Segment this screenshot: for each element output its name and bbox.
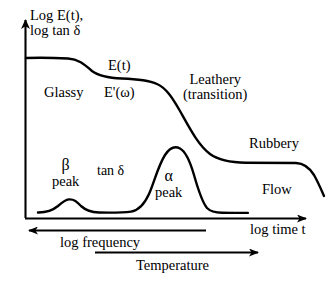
label-temperature: Temperature xyxy=(136,258,209,273)
label-log-frequency: log frequency xyxy=(60,235,140,250)
label-beta-peak-text: peak xyxy=(52,174,79,189)
label-alpha-peak-text: peak xyxy=(155,185,182,200)
y-axis-label-line2: log tan δ xyxy=(30,23,83,38)
label-leathery-line1: Leathery xyxy=(189,71,241,87)
y-axis-label: Log E(t), log tan δ xyxy=(30,8,83,38)
y-axis-label-line1: Log E(t), xyxy=(30,7,83,23)
label-modulus-et: E(t) xyxy=(108,58,131,73)
label-beta-peak: β peak xyxy=(52,157,79,189)
viscoelastic-regions-figure: Log E(t), log tan δ Glassy E(t) E'(ω) Le… xyxy=(0,0,331,292)
label-modulus-e-prime-omega: E'(ω) xyxy=(104,85,135,100)
label-glassy: Glassy xyxy=(44,85,83,100)
label-flow: Flow xyxy=(262,182,292,197)
label-rubbery: Rubbery xyxy=(249,136,299,151)
label-leathery-line2: (transition) xyxy=(183,87,247,102)
label-log-time: log time t xyxy=(250,222,306,237)
label-beta-symbol: β xyxy=(52,157,79,174)
label-alpha-symbol: α xyxy=(155,168,182,185)
label-leathery: Leathery (transition) xyxy=(183,72,247,102)
label-tan-delta: tan δ xyxy=(97,164,124,179)
label-alpha-peak: α peak xyxy=(155,168,182,200)
